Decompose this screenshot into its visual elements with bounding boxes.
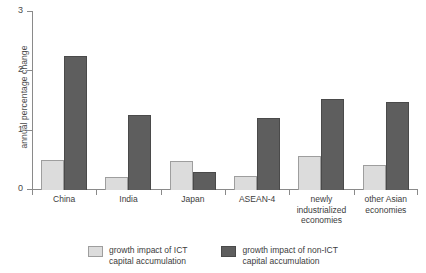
bar-ict-asean4 — [234, 176, 257, 190]
bar-nonict-india — [128, 115, 151, 190]
chart-legend: growth impact of ICT capital accumulatio… — [0, 245, 426, 266]
bar-nonict-asean4 — [257, 118, 280, 190]
bar-group-india — [96, 11, 160, 190]
bar-nonict-china — [64, 56, 87, 190]
bar-group-china — [32, 11, 96, 190]
bar-ict-china — [41, 160, 64, 190]
x-label-china: China — [32, 194, 96, 226]
y-tick-label-3: 3 — [18, 5, 23, 16]
bar-group-asean4 — [225, 11, 289, 190]
bar-groups — [32, 11, 418, 190]
bar-ict-japan — [170, 161, 193, 190]
x-label-asean4: ASEAN-4 — [225, 194, 289, 226]
bar-chart: annual percentage change 0 1 2 3 — [0, 0, 426, 273]
legend-swatch-nonict-icon — [221, 246, 236, 257]
legend-item-ict: growth impact of ICT capital accumulatio… — [88, 245, 187, 266]
bar-nonict-japan — [193, 172, 216, 190]
bar-nonict-other-asian-economies — [386, 102, 409, 190]
legend-item-nonict: growth impact of non-ICT capital accumul… — [221, 245, 337, 266]
x-label-newly-industrialized-economies: newly industrialized economies — [289, 194, 353, 226]
bar-ict-newly-industrialized-economies — [298, 156, 321, 190]
bar-ict-other-asian-economies — [363, 165, 386, 190]
legend-label-nonict: growth impact of non-ICT capital accumul… — [242, 245, 337, 266]
x-label-other-asian-economies: other Asian economies — [354, 194, 418, 226]
bar-nonict-newly-industrialized-economies — [321, 99, 344, 190]
y-tick-label-2: 2 — [18, 64, 23, 75]
bar-group-newly-industrialized-economies — [289, 11, 353, 190]
y-tick-label-1: 1 — [18, 124, 23, 135]
bar-group-japan — [161, 11, 225, 190]
bar-ict-india — [105, 177, 128, 190]
legend-label-ict: growth impact of ICT capital accumulatio… — [109, 245, 187, 266]
y-tick-label-0: 0 — [18, 183, 23, 194]
x-axis-labels: China India Japan ASEAN-4 newly industri… — [32, 194, 418, 226]
x-label-japan: Japan — [161, 194, 225, 226]
bar-group-other-asian-economies — [354, 11, 418, 190]
x-label-india: India — [96, 194, 160, 226]
legend-swatch-ict-icon — [88, 246, 103, 257]
y-axis-title: annual percentage change — [19, 17, 29, 177]
plot-area: 0 1 2 3 — [32, 11, 418, 190]
